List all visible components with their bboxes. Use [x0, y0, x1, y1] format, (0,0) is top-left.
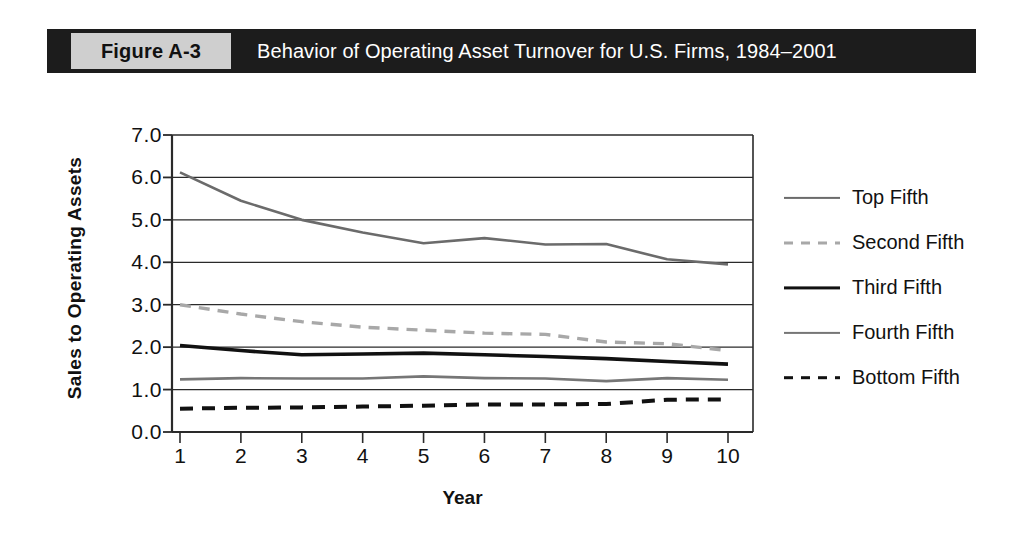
legend-label: Top Fifth: [852, 186, 929, 209]
legend-label: Bottom Fifth: [852, 366, 960, 389]
x-tick-label: 5: [407, 444, 441, 468]
x-tick-label: 9: [650, 444, 684, 468]
x-tick-label: 10: [711, 444, 745, 468]
legend-label: Third Fifth: [852, 276, 942, 299]
series-line-third-fifth: [180, 345, 728, 364]
legend-swatch-icon: [784, 327, 840, 339]
x-tick-label: 3: [285, 444, 319, 468]
chart-legend: Top FifthSecond FifthThird FifthFourth F…: [784, 175, 1014, 400]
legend-item[interactable]: Third Fifth: [784, 265, 1014, 310]
legend-swatch-icon: [784, 372, 840, 384]
x-tick-label: 8: [589, 444, 623, 468]
series-line-second-fifth: [180, 305, 728, 351]
x-tick-label: 6: [467, 444, 501, 468]
x-tick-label: 4: [346, 444, 380, 468]
legend-item[interactable]: Top Fifth: [784, 175, 1014, 220]
series-line-fourth-fifth: [180, 376, 728, 381]
legend-item[interactable]: Second Fifth: [784, 220, 1014, 265]
legend-label: Second Fifth: [852, 231, 964, 254]
legend-label: Fourth Fifth: [852, 321, 954, 344]
x-tick-label: 1: [163, 444, 197, 468]
x-tick-label: 2: [224, 444, 258, 468]
legend-swatch-icon: [784, 192, 840, 204]
x-tick-label: 7: [528, 444, 562, 468]
legend-swatch-icon: [784, 237, 840, 249]
legend-item[interactable]: Bottom Fifth: [784, 355, 1014, 400]
legend-swatch-icon: [784, 282, 840, 294]
legend-item[interactable]: Fourth Fifth: [784, 310, 1014, 355]
series-line-bottom-fifth: [180, 399, 728, 408]
series-line-top-fifth: [180, 172, 728, 264]
